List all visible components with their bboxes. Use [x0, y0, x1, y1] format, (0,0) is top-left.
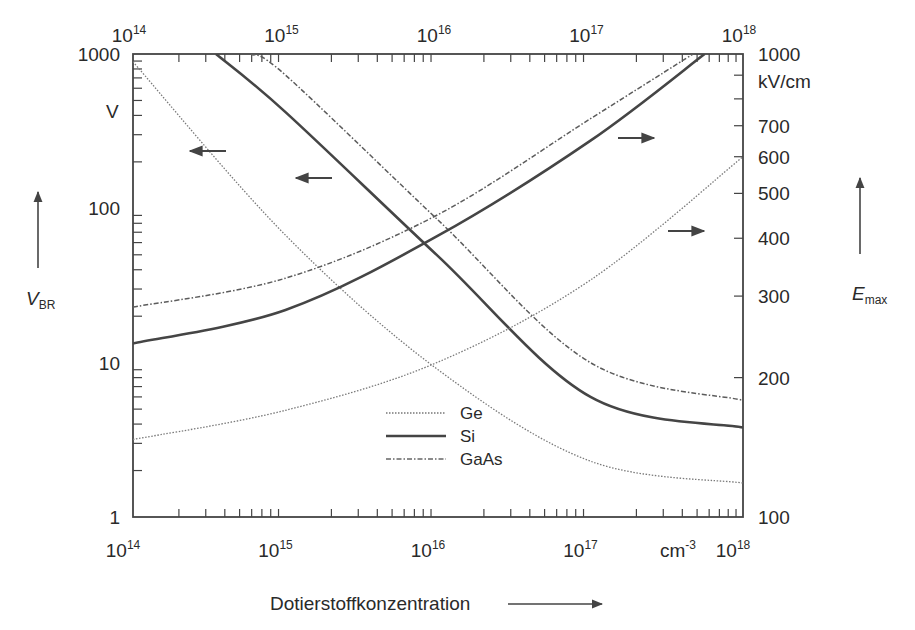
legend-label-ge: Ge [460, 404, 483, 423]
series-si-emax [133, 54, 705, 344]
x-axis-label: Dotierstoffkonzentration [270, 593, 470, 614]
y-right-tick-label: 200 [758, 368, 790, 389]
x-tick-label-top: 1017 [569, 23, 604, 46]
plot-border [133, 54, 743, 517]
axis-indicator-arrows [190, 138, 704, 231]
series-gaas-vbr [251, 54, 743, 400]
svg-text:cm-3: cm-3 [660, 538, 696, 561]
y-left-unit: V [106, 101, 119, 122]
y-right-tick-label: 600 [758, 147, 790, 168]
legend: Ge Si GaAs [386, 404, 503, 469]
x-tick-label-bottom: 1014 [106, 538, 141, 561]
y-left-label-sub: BR [39, 298, 56, 312]
x-tick-label-bottom: 1018 [716, 538, 751, 561]
x-tick-label-top: 1018 [722, 23, 757, 46]
y-right-label-sub: max [865, 293, 888, 307]
y-right-tick-label: 1000 [758, 44, 800, 65]
y-left-tick-label: 1 [109, 507, 120, 528]
y-right-tick-label: 400 [758, 228, 790, 249]
x-tick-label-top: 1016 [417, 23, 452, 46]
series-si-vbr [216, 54, 743, 428]
y-right-tick-label: 300 [758, 286, 790, 307]
y-left-tick-label: 1000 [78, 44, 120, 65]
breakdown-voltage-chart: 1014101410151015101610161017101710181018… [0, 0, 915, 630]
y-left-tick-label: 10 [99, 353, 120, 374]
y-right-tick-label: 500 [758, 183, 790, 204]
series-ge-emax [133, 157, 743, 440]
svg-text:VBR: VBR [26, 288, 56, 312]
legend-label-gaas: GaAs [460, 450, 503, 469]
svg-text:Emax: Emax [852, 283, 887, 307]
y-right-unit: kV/cm [758, 71, 811, 92]
x-tick-label-top: 1015 [264, 23, 299, 46]
x-tick-label-bottom: 1017 [563, 538, 598, 561]
x-unit-exponent: -3 [685, 538, 696, 552]
tick-labels: 1014101410151015101610161017101710181018… [78, 23, 801, 561]
series-gaas-emax [133, 54, 693, 307]
series-ge-vbr [133, 62, 743, 483]
plot-frame [133, 54, 743, 517]
x-title: Dotierstoffkonzentration cm-3 [270, 538, 696, 614]
y-right-tick-label: 700 [758, 116, 790, 137]
x-tick-label-bottom: 1016 [411, 538, 446, 561]
x-unit-label: cm [660, 540, 685, 561]
legend-label-si: Si [460, 427, 475, 446]
curves [133, 54, 743, 483]
x-tick-label-top: 1014 [112, 23, 147, 46]
axis-ticks [133, 54, 743, 517]
x-tick-label-bottom: 1015 [258, 538, 293, 561]
y-left-tick-label: 100 [88, 198, 120, 219]
y-right-tick-label: 100 [758, 507, 790, 528]
y-right-label: E [852, 283, 865, 304]
